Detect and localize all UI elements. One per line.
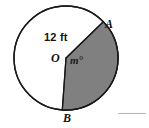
point-b-label: B <box>63 112 71 124</box>
answer-rule-line <box>118 113 146 114</box>
central-angle-label: m° <box>70 55 83 66</box>
center-point-label: O <box>51 52 60 64</box>
circle-sector-figure: 12 ft O m° A B <box>0 0 149 128</box>
point-a-label: A <box>105 18 113 30</box>
radius-length-label: 12 ft <box>44 32 68 43</box>
